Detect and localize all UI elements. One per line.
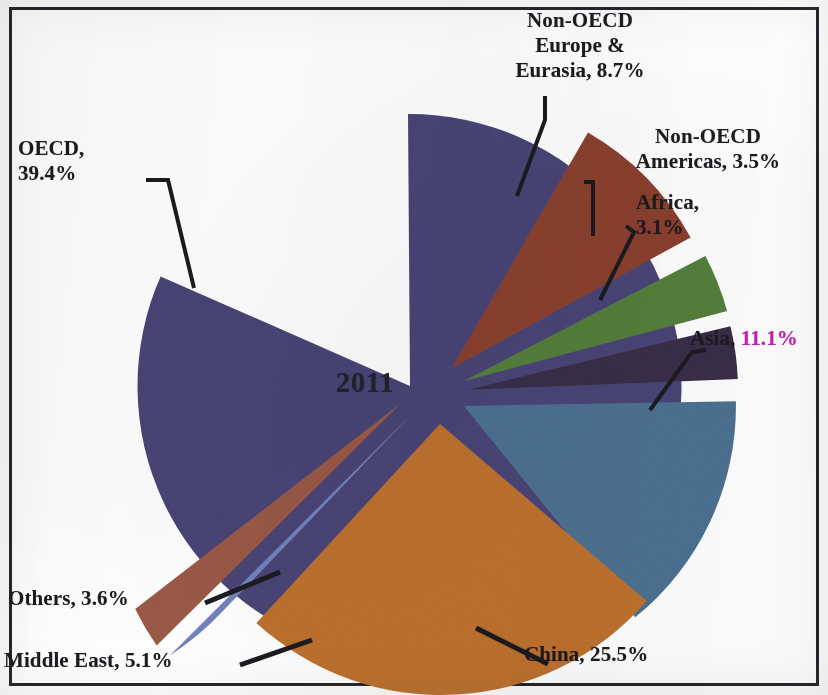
slice-label-asia-name: Asia,	[690, 326, 741, 350]
slice-label-africa: Africa, 3.1%	[636, 190, 756, 240]
slice-label-nonoecd-americas: Non-OECD Americas, 3.5%	[590, 124, 826, 174]
scanned-page: Non-OECD Europe & Eurasia, 8.7% Non-OECD…	[0, 0, 828, 695]
chart-center-year-label: 2011	[300, 366, 430, 399]
slice-label-china: China, 25.5%	[524, 642, 754, 667]
slice-label-asia-percent: 11.1%	[741, 326, 798, 350]
slice-label-middle-east: Middle East, 5.1%	[4, 648, 274, 673]
slice-label-others: Others, 3.6%	[8, 586, 208, 611]
slice-label-asia: Asia, 11.1%	[690, 326, 828, 351]
slice-label-noneu-eurasia: Non-OECD Europe & Eurasia, 8.7%	[470, 8, 690, 84]
pie-chart: Non-OECD Europe & Eurasia, 8.7% Non-OECD…	[0, 0, 828, 695]
slice-label-oecd: OECD, 39.4%	[18, 136, 158, 186]
